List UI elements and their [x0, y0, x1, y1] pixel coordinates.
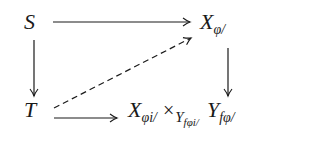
fiber-product-base-main: Y — [175, 109, 183, 125]
node-s: S — [24, 11, 35, 33]
node-t-label: T — [24, 97, 36, 122]
fiber-product-y-main: Y — [207, 97, 219, 122]
fiber-product-x-main: X — [128, 97, 141, 122]
node-s-label: S — [24, 9, 35, 34]
node-x-phi-subscript: φ/ — [213, 22, 225, 37]
node-t: T — [24, 99, 36, 121]
fiber-product-base: Yfφi/ — [175, 109, 199, 125]
node-fiber-product: Xφi/×Yfφi/Yfφ/ — [128, 99, 235, 121]
fiber-product-times-operator: × — [163, 99, 174, 121]
arrows-layer — [0, 0, 328, 143]
fiber-product-y-subscript: fφ/ — [219, 110, 235, 125]
fiber-product-base-subscript: fφi/ — [184, 116, 199, 128]
node-x-phi: Xφ/ — [200, 11, 225, 33]
dashed-arrow-t-to-x — [54, 38, 191, 108]
node-x-phi-main: X — [200, 9, 213, 34]
fiber-product-x-subscript: φi/ — [141, 110, 157, 125]
